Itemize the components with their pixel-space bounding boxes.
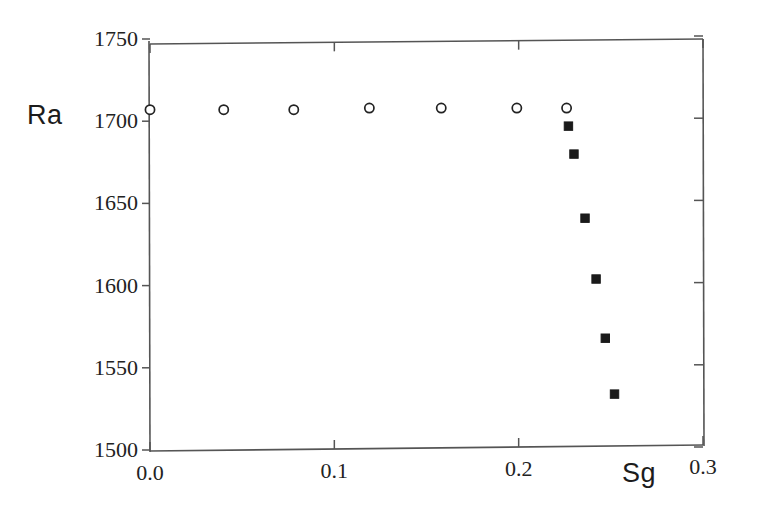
data-point-open-circle[interactable]: [289, 105, 298, 114]
data-point-filled-square[interactable]: [592, 275, 600, 283]
data-point-filled-square[interactable]: [610, 390, 618, 398]
x-axis-line: [150, 445, 703, 451]
x-tick-label: 0.2: [505, 456, 533, 482]
y-tick-label: 1500: [94, 437, 138, 463]
x-tick-label: 0.1: [321, 458, 349, 484]
right-frame-line: [703, 39, 704, 446]
x-tick-label: 0.0: [136, 460, 164, 486]
axis-frame: [149, 39, 704, 452]
y-tick-label: 1650: [94, 190, 138, 216]
data-point-filled-square[interactable]: [581, 214, 589, 222]
y-axis-label: Ra: [27, 100, 63, 131]
x-tick-label: 0.3: [689, 454, 717, 480]
data-point-open-circle[interactable]: [365, 103, 374, 112]
y-tick-label: 1600: [94, 273, 138, 299]
y-tick-label: 1550: [94, 355, 138, 381]
data-point-open-circle[interactable]: [512, 103, 521, 112]
data-point-open-circle[interactable]: [562, 103, 571, 112]
y-tick-label: 1700: [94, 108, 138, 134]
data-point-filled-square[interactable]: [601, 334, 609, 342]
series-filled-squares: [564, 122, 618, 398]
series-open-circles: [145, 103, 571, 114]
y-axis-line: [149, 41, 150, 452]
top-frame-line: [150, 39, 703, 44]
data-point-filled-square[interactable]: [570, 150, 578, 158]
tick-marks: [142, 36, 703, 451]
data-point-filled-square[interactable]: [564, 122, 572, 130]
data-point-open-circle[interactable]: [437, 103, 446, 112]
x-axis-label: Sg: [622, 458, 656, 489]
data-point-open-circle[interactable]: [219, 105, 228, 114]
scatter-chart-figure: Ra Sg 1500155016001650170017500.00.10.20…: [0, 0, 760, 523]
data-point-open-circle[interactable]: [145, 105, 154, 114]
y-tick-label: 1750: [94, 26, 138, 52]
